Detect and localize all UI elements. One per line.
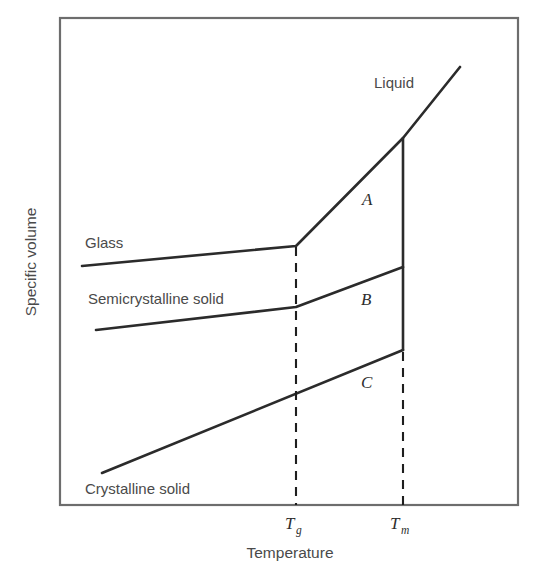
annotation-region-c: C (361, 373, 373, 392)
annotation-liquid: Liquid (374, 74, 414, 91)
specific-volume-temperature-figure: Liquid Glass Semicrystalline solid Cryst… (0, 0, 539, 566)
annotation-region-a: A (361, 190, 373, 209)
x-axis-title: Temperature (246, 544, 333, 561)
annotation-semicrystalline-solid: Semicrystalline solid (88, 290, 224, 307)
annotation-region-b: B (361, 290, 372, 309)
xtick-tm-base: T (390, 514, 401, 533)
xtick-tg-subscript: g (296, 524, 302, 537)
annotation-glass: Glass (85, 234, 123, 251)
xtick-tg-base: T (285, 514, 296, 533)
figure-background (0, 0, 539, 566)
chart-svg: Liquid Glass Semicrystalline solid Cryst… (0, 0, 539, 566)
y-axis-title: Specific volume (22, 208, 39, 317)
annotation-crystalline-solid: Crystalline solid (85, 480, 190, 497)
xtick-tm-subscript: m (401, 524, 409, 536)
